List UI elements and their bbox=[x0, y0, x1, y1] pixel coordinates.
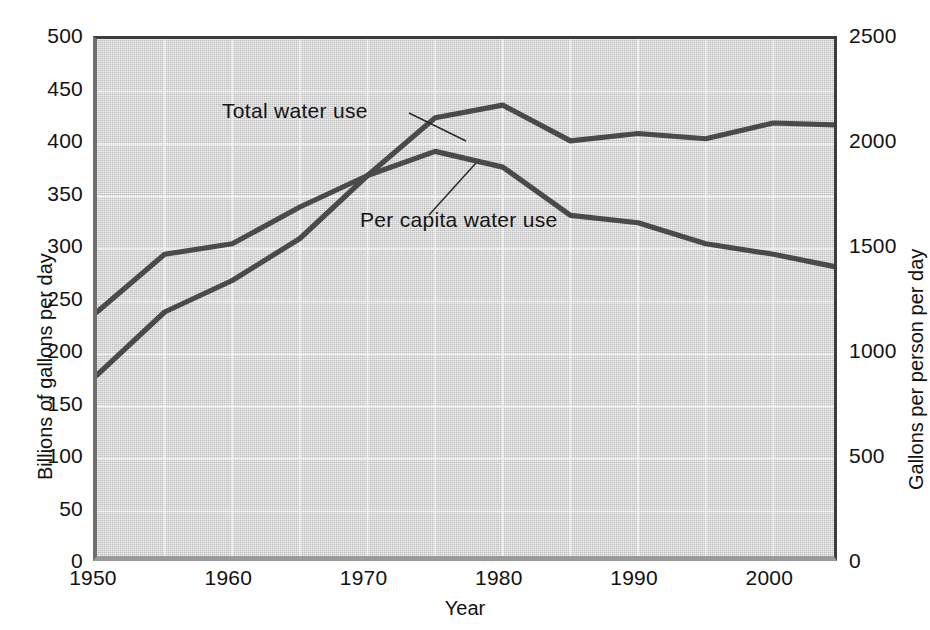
annotation-leader-line-1 bbox=[409, 113, 466, 141]
y-axis-right-tick-label: 2000 bbox=[849, 129, 897, 153]
y-axis-right-tick-label: 1500 bbox=[849, 234, 897, 258]
y-axis-right-tick-label: 1000 bbox=[849, 339, 897, 363]
annotation-total-water-use: Total water use bbox=[222, 99, 368, 123]
x-axis-tick-label: 1960 bbox=[205, 566, 253, 590]
x-axis-title: Year bbox=[0, 597, 930, 620]
y-axis-right-tick-label: 2500 bbox=[849, 24, 897, 48]
x-axis-tick-label: 1950 bbox=[69, 566, 117, 590]
y-axis-right-title: Gallons per person per day bbox=[905, 249, 928, 490]
y-axis-left-tick-label: 450 bbox=[47, 77, 83, 101]
annotation-per-capita-water-use: Per capita water use bbox=[360, 208, 557, 232]
x-axis-tick-label: 1980 bbox=[475, 566, 523, 590]
y-axis-left-tick-label: 350 bbox=[47, 182, 83, 206]
y-axis-left-tick-label: 400 bbox=[47, 129, 83, 153]
annotation-leader-lines bbox=[97, 39, 837, 561]
water-use-chart-figure: Total water use Per capita water use 050… bbox=[0, 0, 930, 630]
plot-area bbox=[93, 36, 837, 561]
y-axis-left-title: Billions of gallons per day bbox=[34, 253, 57, 480]
y-axis-left-tick-label: 500 bbox=[47, 24, 83, 48]
x-axis-tick-label: 1990 bbox=[610, 566, 658, 590]
x-axis-tick-label: 2000 bbox=[746, 566, 794, 590]
y-axis-left-tick-label: 50 bbox=[59, 497, 83, 521]
y-axis-right-tick-label: 500 bbox=[849, 444, 885, 468]
y-axis-right-tick-label: 0 bbox=[849, 549, 861, 573]
x-axis-tick-label: 1970 bbox=[340, 566, 388, 590]
